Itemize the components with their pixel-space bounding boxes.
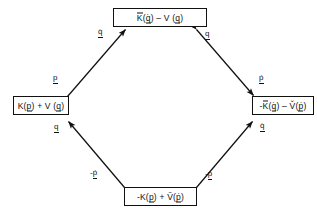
p-underline: p: [208, 170, 213, 178]
edge-label-upper-left-inner: q̇: [98, 28, 103, 36]
q-underline: q: [56, 102, 61, 111]
p-underline: p: [53, 74, 58, 82]
edge-label-upper-left-outer: p: [53, 74, 58, 82]
node-bottom-formula: -K(p) + Ṽ(ṗ): [137, 193, 184, 202]
p-underline: p: [149, 193, 154, 202]
edge-label-upper-right-outer: ṗ: [259, 74, 264, 82]
edge-label-lower-right-inner: q̇: [260, 122, 265, 130]
q-underline: q: [175, 14, 180, 23]
p-dot-underline: ṗ: [93, 169, 98, 177]
q-dot-underline: q̇: [98, 28, 103, 36]
edge-label-upper-right-inner: q: [205, 30, 210, 38]
edge-label-lower-left-inner: q: [54, 123, 59, 131]
commutative-diagram: K(q̇) – V (q) K(p) + V (q) -K(q̇) – V̌(p…: [0, 0, 317, 216]
q-dot-underline: q̇: [260, 122, 265, 130]
v-check-glyph: V̌: [290, 101, 296, 111]
node-right-formula: -K(q̇) – V̌(ṗ): [260, 102, 307, 111]
node-box-top: K(q̇) – V (q): [113, 8, 207, 27]
node-box-right: -K(q̇) – V̌(ṗ): [252, 96, 314, 115]
q-dot-underline: q̇: [146, 14, 151, 23]
p-dot-underline: ṗ: [176, 193, 181, 202]
edge-label-lower-right-outer: -p: [205, 170, 212, 178]
node-left-formula: K(p) + V (q): [18, 102, 65, 111]
p-dot-underline: ṗ: [298, 102, 303, 111]
q-underline: q: [54, 123, 59, 131]
q-underline: q: [205, 30, 210, 38]
v-tilde-glyph: Ṽ: [167, 192, 173, 202]
p-dot-underline: ṗ: [259, 74, 264, 82]
node-top-formula: K(q̇) – V (q): [137, 14, 183, 23]
p-underline: p: [27, 102, 32, 111]
q-dot-underline: q̇: [272, 102, 277, 111]
k-bar-glyph: K: [263, 102, 269, 111]
node-box-left: K(p) + V (q): [13, 96, 69, 115]
edge-left-top: [68, 30, 126, 97]
edge-label-lower-left-outer: -ṗ: [90, 169, 97, 177]
k-bar-glyph: K: [137, 14, 143, 23]
node-box-bottom: -K(p) + Ṽ(ṗ): [124, 187, 197, 206]
